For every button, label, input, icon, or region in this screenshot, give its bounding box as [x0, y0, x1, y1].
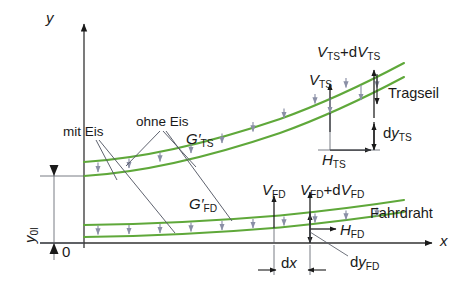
dx-x: x: [289, 254, 297, 271]
figure-catenary-force-diagram: y x 0 y0l mit Eis ohne Eis G′TS G′FD VTS…: [0, 0, 476, 288]
v-ts-plus-dv-label: VTS+dVTS: [317, 44, 380, 62]
tragseil-label: Tragseil: [388, 86, 439, 101]
fahrdraht-label: Fahrdraht: [370, 206, 433, 221]
v-fd-plus-d: +d: [324, 181, 341, 198]
y-axis-label: y: [46, 10, 54, 25]
v-ts-plus-sub2: TS: [367, 51, 380, 62]
v-ts-base: V: [309, 71, 319, 88]
v-fd-plus-base: V: [300, 181, 310, 198]
h-ts-label: HTS: [322, 152, 346, 170]
v-ts-label: VTS: [309, 72, 332, 90]
dy-ts-y: y: [391, 124, 399, 141]
ohne-eis-label: ohne Eis: [136, 115, 189, 129]
v-fd-subscript: FD: [272, 189, 286, 200]
v-ts-plus-d: +d: [340, 43, 357, 60]
diagram-canvas: [0, 0, 476, 288]
y0l-arrow-top: [50, 165, 59, 176]
h-ts-subscript: TS: [333, 159, 346, 170]
x-axis-label: x: [440, 233, 448, 248]
dy-fd-label: dyFD: [350, 254, 379, 272]
g-fd-base: G: [189, 195, 201, 212]
y0l-base: y: [21, 236, 38, 244]
g-fd-label: G′FD: [189, 196, 217, 214]
dy-fd-subscript: FD: [366, 261, 380, 272]
origin-label: 0: [62, 244, 70, 259]
mit-eis-label: mit Eis: [63, 125, 104, 139]
tragseil-curves: [84, 63, 404, 176]
dx-label: dx: [281, 255, 297, 270]
g-fd-subscript: FD: [203, 203, 217, 214]
g-ts-base: G: [186, 130, 198, 147]
y0l-label: y0l: [22, 228, 40, 243]
v-fd-base: V: [262, 181, 272, 198]
dy-fd-y: y: [358, 253, 366, 270]
tragseil-curve-ohne-eis: [84, 63, 404, 162]
dy-ts-subscript: TS: [399, 132, 412, 143]
v-fd-label: VFD: [262, 182, 286, 200]
y0l-subscript: 0l: [29, 228, 40, 236]
h-fd-subscript: FD: [351, 229, 365, 240]
tragseil-curve-mit-eis: [84, 77, 404, 176]
h-ts-base: H: [322, 151, 333, 168]
tragseil-element-guides: [318, 113, 380, 150]
v-fd-plus-base2: V: [341, 181, 351, 198]
g-ts-label: G′TS: [186, 131, 214, 149]
leader-mit-eis-fahrdraht: [99, 140, 175, 233]
v-ts-plus-base: V: [317, 43, 327, 60]
dy-ts-label: dyTS: [383, 125, 412, 143]
h-fd-label: HFD: [340, 222, 364, 240]
h-fd-base: H: [340, 221, 351, 238]
g-ts-subscript: TS: [200, 138, 213, 149]
tragseil-element-faces: [330, 85, 361, 113]
v-fd-plus-sub1: FD: [310, 189, 324, 200]
v-fd-plus-dv-label: VFD+dVFD: [300, 182, 364, 200]
v-ts-plus-base2: V: [357, 43, 367, 60]
leader-ohne-eis-tragseil: [126, 131, 160, 166]
v-fd-plus-sub2: FD: [351, 189, 365, 200]
v-ts-plus-sub1: TS: [327, 51, 340, 62]
v-ts-subscript: TS: [319, 79, 332, 90]
y0l-arrow-bottom: [50, 243, 59, 254]
